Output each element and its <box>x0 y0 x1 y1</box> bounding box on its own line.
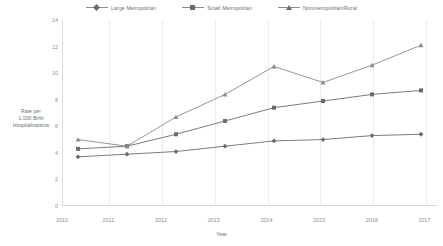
x-axis-title: Year <box>0 231 443 237</box>
x-tick-label: 2012 <box>141 217 181 223</box>
y-axis-title-line-3: Hospitalizations <box>4 122 58 129</box>
x-tick-label: 2013 <box>194 217 234 223</box>
x-tick-label: 2016 <box>352 217 392 223</box>
x-tick-label: 2010 <box>42 217 82 223</box>
y-axis-title-line-2: 1,000 Birth <box>4 115 58 122</box>
x-tick-label: 2014 <box>247 217 287 223</box>
x-tick-label: 2015 <box>299 217 339 223</box>
x-tick-label: 2011 <box>88 217 128 223</box>
x-axis-ticks: 2010 2011 2012 2013 2014 2015 2016 2017 <box>0 0 443 246</box>
line-chart: Large Metropolitan Small Metropolitan No… <box>0 0 443 246</box>
x-tick-label: 2017 <box>405 217 443 223</box>
y-axis-title: Rate per 1,000 Birth Hospitalizations <box>4 108 58 129</box>
y-axis-title-line-1: Rate per <box>4 108 58 115</box>
